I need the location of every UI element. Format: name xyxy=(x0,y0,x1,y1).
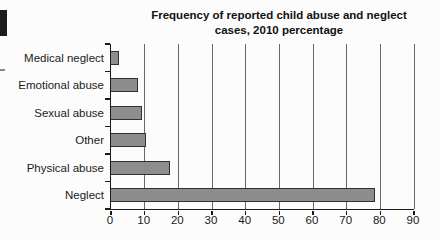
y-axis-tick xyxy=(105,153,110,155)
gridline-10 xyxy=(144,44,145,209)
x-tick-label-60: 60 xyxy=(297,214,327,226)
x-tick-label-40: 40 xyxy=(230,214,260,226)
gridline-50 xyxy=(279,44,280,209)
chart-title-line-1: Frequency of reported child abuse and ne… xyxy=(119,8,439,23)
y-axis-tick xyxy=(105,71,110,73)
y-axis-tick xyxy=(105,181,110,183)
gridline-40 xyxy=(245,44,246,209)
category-label-sexual-abuse: Sexual abuse xyxy=(0,99,104,127)
y-axis-tick xyxy=(105,43,110,45)
gridline-90 xyxy=(414,44,415,209)
gridline-80 xyxy=(380,44,381,209)
scanned-chart-page: Frequency of reported child abuse and ne… xyxy=(0,0,439,240)
x-tick-label-90: 90 xyxy=(398,214,428,226)
bar-other xyxy=(111,133,146,147)
x-tick-label-30: 30 xyxy=(196,214,226,226)
category-label-medical-neglect: Medical neglect xyxy=(0,44,104,72)
plot-area xyxy=(110,44,414,210)
chart-title-line-2: cases, 2010 percentage xyxy=(119,23,439,38)
x-tick-label-0: 0 xyxy=(95,214,125,226)
gridline-70 xyxy=(346,44,347,209)
x-tick-label-20: 20 xyxy=(162,214,192,226)
category-label-other: Other xyxy=(0,127,104,155)
x-tick-label-10: 10 xyxy=(129,214,159,226)
bar-emotional-abuse xyxy=(111,78,138,92)
category-label-emotional-abuse: Emotional abuse xyxy=(0,72,104,100)
x-tick-label-50: 50 xyxy=(263,214,293,226)
bar-medical-neglect xyxy=(111,51,119,65)
bar-physical-abuse xyxy=(111,161,170,175)
x-tick-label-70: 70 xyxy=(331,214,361,226)
category-label-neglect: Neglect xyxy=(0,182,104,210)
scan-artifact-black-block xyxy=(0,10,7,36)
gridline-30 xyxy=(212,44,213,209)
gridline-60 xyxy=(313,44,314,209)
y-axis-tick xyxy=(105,98,110,100)
category-label-physical-abuse: Physical abuse xyxy=(0,154,104,182)
y-axis-tick xyxy=(105,208,110,210)
chart-title: Frequency of reported child abuse and ne… xyxy=(119,8,439,38)
bar-neglect xyxy=(111,188,375,202)
bar-sexual-abuse xyxy=(111,106,142,120)
x-tick-label-80: 80 xyxy=(364,214,394,226)
gridline-20 xyxy=(178,44,179,209)
y-axis-tick xyxy=(105,126,110,128)
